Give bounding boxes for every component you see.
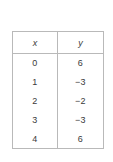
- cell-x-value: 4: [13, 129, 58, 148]
- cell-x-value: 0: [13, 54, 58, 73]
- table-row: 2 −2: [13, 92, 104, 111]
- cell-x-value: 3: [13, 110, 58, 129]
- table-row: 4 6: [13, 129, 104, 148]
- screenshot-root: x y 0 6 1 −3 2 −2 3 −3 4 6: [0, 0, 113, 162]
- table-header-row: x y: [13, 32, 104, 54]
- cell-y-value: −3: [58, 73, 104, 92]
- cell-x-value: 2: [13, 92, 58, 111]
- column-header-x: x: [13, 32, 58, 54]
- table-header: x y: [13, 32, 104, 54]
- column-header-y: y: [58, 32, 104, 54]
- xy-value-table: x y 0 6 1 −3 2 −2 3 −3 4 6: [12, 31, 104, 149]
- table-row: 3 −3: [13, 110, 104, 129]
- cell-x-value: 1: [13, 73, 58, 92]
- cell-y-value: 6: [58, 54, 104, 73]
- cell-y-value: −2: [58, 92, 104, 111]
- cell-y-value: 6: [58, 129, 104, 148]
- cell-y-value: −3: [58, 110, 104, 129]
- table-body: 0 6 1 −3 2 −2 3 −3 4 6: [13, 54, 104, 149]
- table-row: 0 6: [13, 54, 104, 73]
- table-row: 1 −3: [13, 73, 104, 92]
